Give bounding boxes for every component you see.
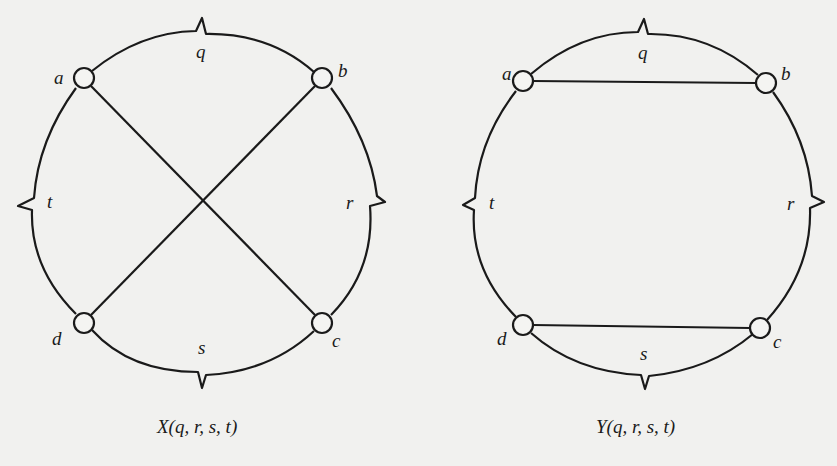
node-d xyxy=(74,313,94,333)
diagram-y: a b c d q r s t Y(q, r, s, t) xyxy=(463,19,824,438)
label-arc-s: s xyxy=(198,337,205,358)
label-node-b: b xyxy=(781,63,791,84)
label-node-a: a xyxy=(502,63,512,84)
label-arc-r: r xyxy=(787,193,795,214)
diagram-canvas: a b c d q r s t X(q, r, s, t) a b c d q … xyxy=(0,0,837,466)
arc-r xyxy=(331,88,385,315)
caption-x: X(q, r, s, t) xyxy=(156,416,237,438)
node-c xyxy=(750,318,770,338)
label-node-d: d xyxy=(497,328,507,349)
label-node-c: c xyxy=(773,331,782,352)
caption-y: Y(q, r, s, t) xyxy=(596,416,675,438)
chord-a-b xyxy=(533,81,756,83)
node-c xyxy=(312,313,332,333)
label-arc-q: q xyxy=(638,42,648,63)
diagram-x: a b c d q r s t X(q, r, s, t) xyxy=(18,18,385,438)
label-arc-q: q xyxy=(196,41,206,62)
label-arc-r: r xyxy=(346,192,354,213)
arc-r xyxy=(767,92,824,320)
node-b xyxy=(312,68,332,88)
node-d xyxy=(513,315,533,335)
node-b xyxy=(756,73,776,93)
chord-d-c xyxy=(533,325,750,328)
node-a xyxy=(74,68,94,88)
label-arc-s: s xyxy=(640,343,647,364)
label-node-d: d xyxy=(52,328,62,349)
label-node-c: c xyxy=(332,330,341,351)
label-arc-t: t xyxy=(47,191,53,212)
label-arc-t: t xyxy=(489,192,495,213)
label-node-b: b xyxy=(338,60,348,81)
label-node-a: a xyxy=(54,67,64,88)
node-a xyxy=(513,71,533,91)
